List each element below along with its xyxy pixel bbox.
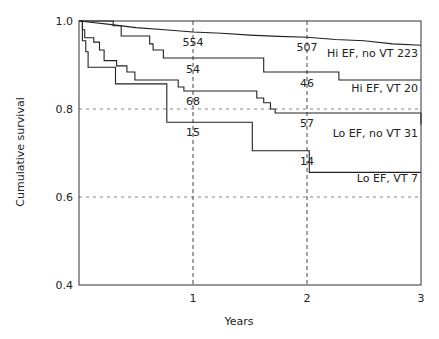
survival-curve [79,21,421,172]
survival-curves [79,21,421,172]
y-tick-label: 1.0 [56,15,74,28]
at-risk-count: 57 [300,117,314,130]
series-label: Hi EF, VT 20 [351,82,418,95]
x-tick-label: 3 [418,292,425,305]
series-label: Lo EF, VT 7 [357,172,418,185]
y-tick-label: 0.8 [56,103,74,116]
at-risk-count: 68 [186,95,200,108]
at-risk-annotations: 554507544668571514 [183,36,318,168]
x-tick-label: 1 [190,292,197,305]
series-label: Hi EF, no VT 223 [327,47,418,60]
y-tick-label: 0.6 [56,191,74,204]
at-risk-count: 507 [297,41,318,54]
x-axis-title: Years [223,315,253,328]
series-label: Lo EF, no VT 31 [333,127,418,140]
y-tick-label: 0.4 [56,279,74,292]
survival-curve [79,21,421,45]
at-risk-count: 46 [300,77,314,90]
survival-chart: 0.40.60.81.0 123 554507544668571514 Hi E… [0,0,439,339]
series-labels: Hi EF, no VT 223Hi EF, VT 20Lo EF, no VT… [327,47,418,185]
grid-lines [79,21,421,285]
plot-frame [79,21,421,285]
x-axis-ticks: 123 [190,292,425,305]
y-axis-title: Cumulative survival [14,97,27,206]
at-risk-count: 15 [186,126,200,139]
at-risk-count: 14 [300,155,314,168]
y-axis-ticks: 0.40.60.81.0 [56,15,74,292]
at-risk-count: 54 [186,63,200,76]
at-risk-count: 554 [183,36,204,49]
x-tick-label: 2 [304,292,311,305]
